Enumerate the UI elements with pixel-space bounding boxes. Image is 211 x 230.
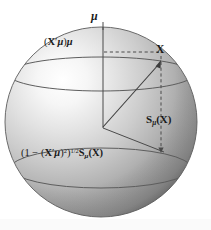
x-vector-label: X — [156, 44, 164, 56]
x-prime-mu-times-mu-label: (X′μ)μ — [44, 37, 73, 48]
scan-artifact-band — [0, 219, 211, 230]
sphere-svg — [0, 0, 211, 230]
sphere-projection-figure: μ (X′μ)μ X Sμ(X) (1 − (X′μ)2)1/2Sμ(X) — [0, 0, 211, 230]
scaled-s-mu-of-x-label: (1 − (X′μ)2)1/2Sμ(X) — [21, 148, 103, 159]
mu-label: μ — [91, 10, 98, 22]
s-mu-of-x-label: Sμ(X) — [146, 114, 171, 127]
